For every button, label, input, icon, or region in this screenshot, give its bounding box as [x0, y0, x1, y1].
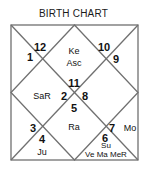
- house-number-8: 8: [82, 91, 88, 102]
- house-number-4: 4: [39, 134, 45, 145]
- house-number-2: 2: [61, 91, 67, 102]
- planet-ju: Ju: [37, 148, 47, 157]
- house-number-9: 9: [113, 54, 119, 65]
- house-number-1: 1: [27, 52, 33, 63]
- house-number-7: 7: [109, 123, 115, 134]
- house-number-3: 3: [30, 123, 36, 134]
- planet-ke: Ke: [68, 47, 79, 56]
- planet-sar: SaR: [33, 92, 51, 101]
- planet-su: Su: [101, 142, 111, 150]
- planet-mo: Mo: [124, 124, 137, 133]
- planet-asc: Asc: [66, 59, 81, 68]
- planet-ra: Ra: [68, 123, 80, 132]
- house-number-11: 11: [68, 78, 80, 89]
- house-number-10: 10: [98, 42, 110, 53]
- planets-ve-ma-mer: Ve Ma MeR: [85, 151, 127, 159]
- house-number-5: 5: [71, 103, 77, 114]
- house-number-12: 12: [34, 42, 46, 53]
